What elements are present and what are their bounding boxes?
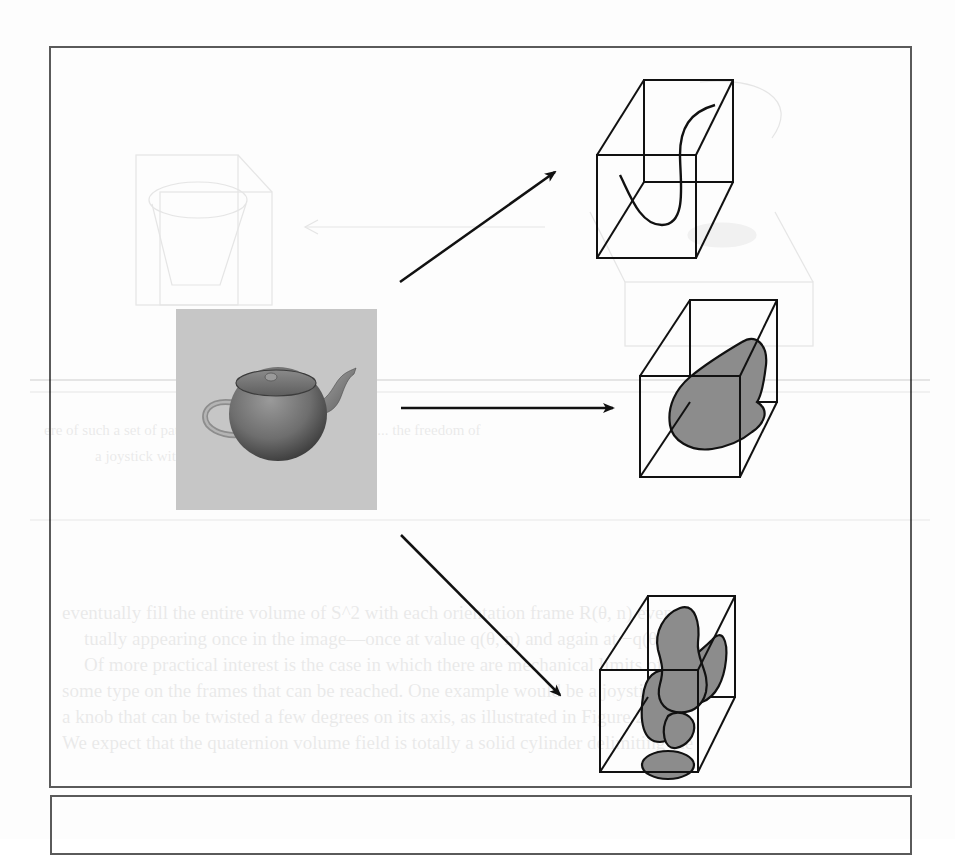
blob-volume (640, 300, 777, 477)
volume-blob (642, 751, 694, 779)
volume-curve (620, 105, 715, 225)
bleed-ghost-drawings (30, 81, 930, 520)
teapot-image (176, 309, 377, 510)
volume-blob (657, 607, 707, 712)
arrow-to-multiblob-volume (401, 535, 560, 695)
multiblob-volume (600, 596, 735, 779)
volume-blob (669, 339, 766, 449)
volume-blob (664, 713, 694, 748)
